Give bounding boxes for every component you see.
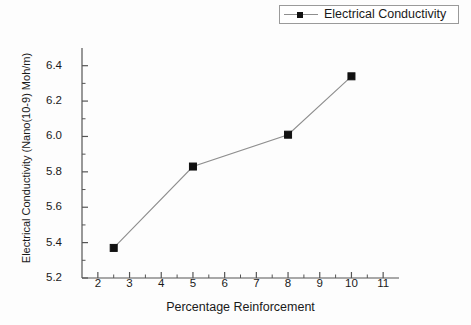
x-axis-tick-label: 3 bbox=[118, 278, 142, 290]
axes-group bbox=[82, 48, 399, 278]
y-axis-tick-label: 6.0 bbox=[34, 130, 62, 142]
plot-area: 5.25.45.65.86.06.26.4 234567891011 Elect… bbox=[0, 0, 471, 325]
x-axis-tick-label: 11 bbox=[371, 278, 395, 290]
y-axis-title: Electrical Conductivity (Nano(10-9) Moh/… bbox=[20, 43, 32, 273]
x-axis-tick-label: 6 bbox=[213, 278, 237, 290]
chart-svg bbox=[0, 0, 471, 325]
data-point-marker bbox=[110, 244, 117, 251]
x-axis-tick-label: 10 bbox=[339, 278, 363, 290]
x-axis-tick-label: 7 bbox=[244, 278, 268, 290]
series-markers-electrical-conductivity bbox=[110, 73, 355, 252]
y-axis-tick-label: 5.2 bbox=[34, 272, 62, 284]
y-axis-tick-label: 5.8 bbox=[34, 166, 62, 178]
x-axis-tick-label: 4 bbox=[149, 278, 173, 290]
y-axis-tick-label: 5.4 bbox=[34, 237, 62, 249]
chart-container: Electrical Conductivity 5.25.45.65.86.06… bbox=[0, 0, 471, 325]
x-axis-tick-label: 2 bbox=[86, 278, 110, 290]
data-point-marker bbox=[189, 163, 196, 170]
y-axis-tick-label: 6.4 bbox=[34, 60, 62, 72]
x-axis-tick-label: 8 bbox=[276, 278, 300, 290]
series-line-electrical-conductivity bbox=[114, 76, 352, 248]
data-point-marker bbox=[348, 73, 355, 80]
x-axis-tick-label: 9 bbox=[308, 278, 332, 290]
data-point-marker bbox=[285, 131, 292, 138]
y-axis-ticks bbox=[82, 66, 88, 278]
y-axis-tick-label: 6.2 bbox=[34, 95, 62, 107]
x-axis-title: Percentage Reinforcement bbox=[82, 300, 399, 314]
y-axis-tick-label: 5.6 bbox=[34, 201, 62, 213]
x-axis-tick-label: 5 bbox=[181, 278, 205, 290]
